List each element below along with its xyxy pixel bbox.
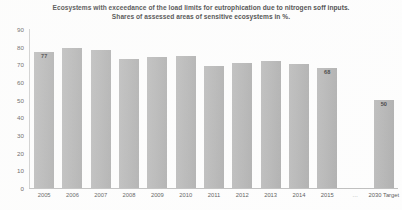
- bar-value-label: 77: [41, 53, 47, 60]
- bar-slot: 77: [30, 29, 58, 188]
- bar-2009[interactable]: [147, 57, 167, 188]
- bar-2014[interactable]: [289, 64, 309, 188]
- bar-slot: [228, 29, 256, 188]
- bar-slot: [115, 29, 143, 188]
- x-axis-label-2030-target: 2030 Target: [369, 192, 400, 198]
- x-axis-label-2006: 2006: [66, 192, 79, 198]
- chart-title: Ecosystems with exceedance of the load l…: [0, 3, 402, 12]
- x-axis-label-2008: 2008: [123, 192, 136, 198]
- x-axis-label-2013: 2013: [264, 192, 277, 198]
- x-axis-label-2012: 2012: [236, 192, 249, 198]
- bar-2012[interactable]: [232, 63, 252, 188]
- x-axis-label-2011: 2011: [208, 192, 220, 198]
- x-axis-label-2005: 2005: [38, 192, 51, 198]
- x-axis-line: [29, 188, 398, 189]
- bar-value-label: 68: [324, 69, 330, 76]
- y-axis-labels: 9080706050403020100: [0, 29, 28, 188]
- bar-2013[interactable]: [261, 61, 281, 188]
- bar-2015[interactable]: 68: [317, 68, 337, 188]
- x-axis-label-2010: 2010: [179, 192, 192, 198]
- bar-slot: [143, 29, 171, 188]
- y-axis-tick-60: 60: [17, 79, 24, 86]
- y-axis-tick-30: 30: [17, 132, 24, 139]
- chart-subtitle: Shares of assessed areas of sensitive ec…: [0, 12, 402, 21]
- chart-title-block: Ecosystems with exceedance of the load l…: [0, 3, 402, 21]
- bar-slot: [285, 29, 313, 188]
- x-axis-label-2014: 2014: [292, 192, 305, 198]
- bar-2007[interactable]: [91, 50, 111, 188]
- x-axis-label-2009: 2009: [151, 192, 164, 198]
- x-axis-label-2007: 2007: [94, 192, 107, 198]
- bar-slot: [256, 29, 284, 188]
- bar-slot-gap: [341, 29, 369, 188]
- x-axis-labels: 2005200620072008200920102011201220132014…: [30, 190, 398, 208]
- bar-slot: 50: [370, 29, 398, 188]
- y-axis-tick-50: 50: [17, 96, 24, 103]
- bar-2030-target[interactable]: 50: [374, 100, 394, 188]
- bar-slot: [58, 29, 86, 188]
- y-axis-tick-0: 0: [21, 185, 24, 192]
- bar-2005[interactable]: 77: [34, 52, 54, 188]
- y-axis-tick-80: 80: [17, 43, 24, 50]
- bar-2010[interactable]: [176, 56, 196, 189]
- bar-slot: [172, 29, 200, 188]
- x-axis-label-…: …: [352, 192, 358, 198]
- bars-layer: 776850: [30, 29, 398, 188]
- bar-value-label: 50: [381, 101, 387, 108]
- chart-container: Ecosystems with exceedance of the load l…: [0, 0, 402, 210]
- y-axis-tick-10: 10: [17, 167, 24, 174]
- bar-2011[interactable]: [204, 66, 224, 188]
- y-axis-tick-40: 40: [17, 114, 24, 121]
- y-axis-tick-90: 90: [17, 26, 24, 33]
- x-axis-label-2015: 2015: [321, 192, 334, 198]
- bar-2006[interactable]: [62, 48, 82, 188]
- bar-slot: 68: [313, 29, 341, 188]
- y-axis-tick-20: 20: [17, 149, 24, 156]
- y-axis-tick-70: 70: [17, 61, 24, 68]
- bar-2008[interactable]: [119, 59, 139, 188]
- bar-slot: [200, 29, 228, 188]
- bar-slot: [87, 29, 115, 188]
